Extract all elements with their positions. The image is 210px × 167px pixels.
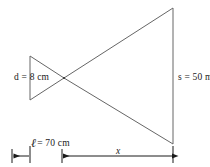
ell-value: = 70 cm xyxy=(37,138,70,148)
ell-symbol: ℓ xyxy=(31,136,37,150)
label-diameter-d: d = 8 cm xyxy=(14,73,49,83)
apex-point xyxy=(63,77,65,79)
label-length-ell: ℓ= 70 cm xyxy=(31,136,70,149)
large-triangle xyxy=(64,8,173,144)
large-triangle-upper-side xyxy=(64,8,173,78)
figure-container: d = 8 cm s = 50 m ℓ= 70 cm x xyxy=(0,0,210,167)
large-triangle-lower-side xyxy=(64,78,173,144)
label-size-s: s = 50 m xyxy=(178,73,210,83)
label-distance-x: x xyxy=(116,147,120,157)
